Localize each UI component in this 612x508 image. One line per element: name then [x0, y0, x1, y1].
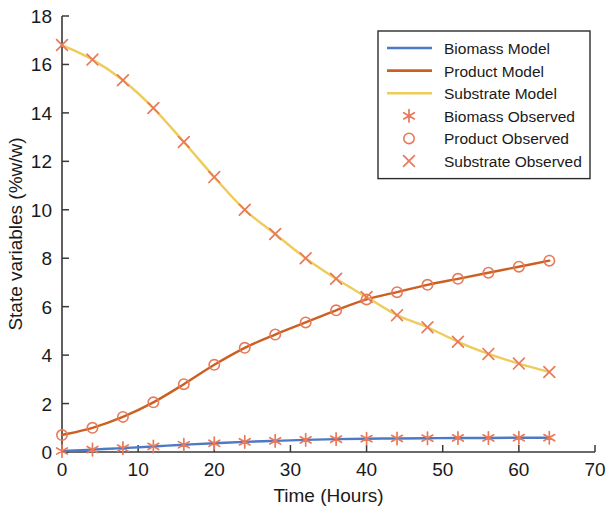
substrate-observed-x-marker — [178, 137, 189, 148]
state-variables-chart: 010203040506070 024681012141618 Time (Ho… — [0, 0, 612, 508]
y-tick-label: 14 — [31, 103, 53, 124]
x-tick-label: 0 — [57, 459, 68, 480]
y-tick-label: 0 — [41, 442, 52, 463]
y-tick-label: 10 — [31, 200, 52, 221]
x-tick-label: 20 — [204, 459, 225, 480]
substrate-observed-x-marker — [118, 75, 129, 86]
series-line-product-model — [62, 261, 549, 435]
x-tick-label: 10 — [128, 459, 149, 480]
substrate-observed-x-marker — [392, 310, 403, 321]
legend-item-label: Substrate Model — [444, 85, 557, 102]
substrate-observed-x-marker — [270, 229, 281, 240]
x-axis-ticks: 010203040506070 — [57, 445, 606, 480]
y-tick-label: 2 — [41, 394, 52, 415]
legend-item-label: Product Observed — [444, 130, 569, 147]
x-tick-label: 60 — [508, 459, 529, 480]
y-axis-title: State variables (%w/w) — [5, 137, 26, 330]
y-tick-label: 4 — [41, 345, 52, 366]
y-axis-ticks: 024681012141618 — [31, 6, 69, 463]
chart-legend: Biomass ModelProduct ModelSubstrate Mode… — [378, 31, 590, 179]
series-markers-biomass-observed — [57, 432, 555, 458]
x-tick-label: 40 — [356, 459, 377, 480]
y-tick-label: 16 — [31, 54, 52, 75]
substrate-observed-x-marker — [148, 103, 159, 114]
x-tick-label: 70 — [584, 459, 605, 480]
substrate-observed-x-marker — [87, 54, 98, 65]
substrate-observed-x-marker — [300, 253, 311, 264]
y-tick-label: 8 — [41, 248, 52, 269]
legend-item-label: Product Model — [444, 63, 544, 80]
legend-item-label: Biomass Model — [444, 40, 550, 57]
legend-item-label: Biomass Observed — [444, 108, 575, 125]
substrate-observed-x-marker — [483, 349, 494, 360]
chart-container: 010203040506070 024681012141618 Time (Ho… — [0, 0, 612, 508]
substrate-observed-x-marker — [239, 204, 250, 215]
substrate-observed-x-marker — [209, 172, 220, 183]
legend-item-label: Substrate Observed — [444, 153, 582, 170]
substrate-observed-x-marker — [453, 336, 464, 347]
x-tick-label: 50 — [432, 459, 453, 480]
y-tick-label: 6 — [41, 297, 52, 318]
substrate-observed-x-marker — [331, 273, 342, 284]
substrate-observed-x-marker — [422, 322, 433, 333]
x-tick-label: 30 — [280, 459, 301, 480]
y-tick-label: 12 — [31, 151, 52, 172]
x-axis-title: Time (Hours) — [273, 485, 383, 506]
y-tick-label: 18 — [31, 6, 52, 27]
